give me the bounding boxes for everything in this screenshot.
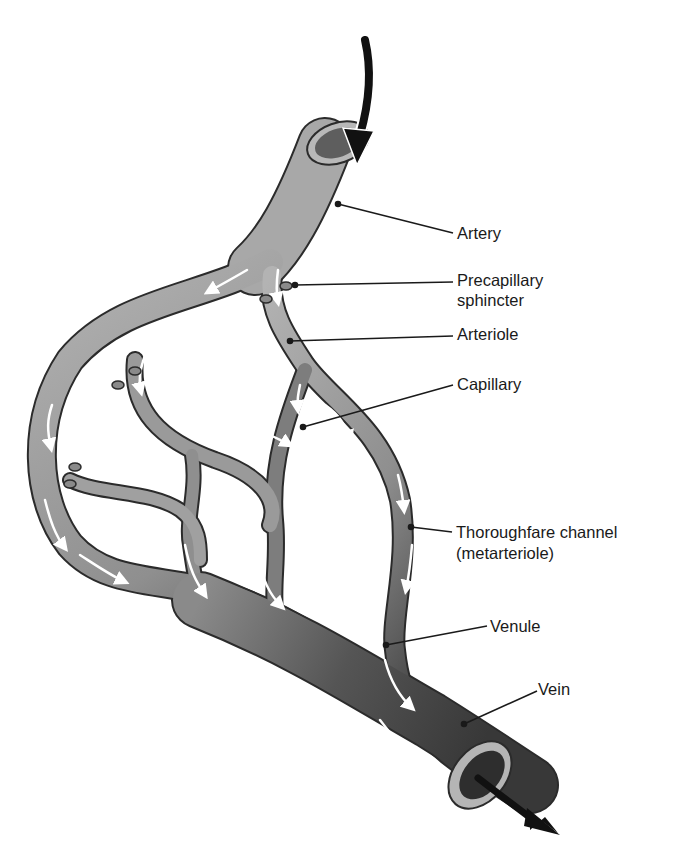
capillary-bed-diagram [0,0,695,844]
sphincter [69,463,81,471]
artery-vessel [255,145,325,268]
sphincter [129,367,141,375]
label-capillary: Capillary [457,375,521,394]
label-arteriole: Arteriole [457,325,518,344]
label-precapillary-sphincter-line1: Precapillary [457,271,543,290]
label-thoroughfare-channel-line2: (metarteriole) [456,544,554,563]
sphincter [64,480,76,488]
label-venule: Venule [490,617,540,636]
label-vein: Vein [538,680,570,699]
label-artery: Artery [457,224,501,243]
sphincter [280,282,292,290]
label-precapillary-sphincter-line2: sphincter [457,291,524,310]
sphincter [260,295,272,303]
sphincter [112,381,124,389]
flow-arrow [277,270,279,302]
label-thoroughfare-channel-line1: Thoroughfare channel [456,523,617,542]
